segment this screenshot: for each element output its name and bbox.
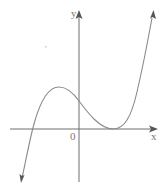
function-graph: y x 0 <box>0 0 163 191</box>
origin-label: 0 <box>70 130 76 142</box>
cubic-curve <box>22 18 152 178</box>
curve-right-arrow-icon <box>150 10 156 19</box>
x-axis-label: x <box>151 130 157 142</box>
stray-mark <box>45 46 47 48</box>
y-axis-label: y <box>71 7 77 19</box>
graph-canvas: y x 0 <box>0 0 163 191</box>
curve-left-arrow-icon <box>20 174 25 183</box>
